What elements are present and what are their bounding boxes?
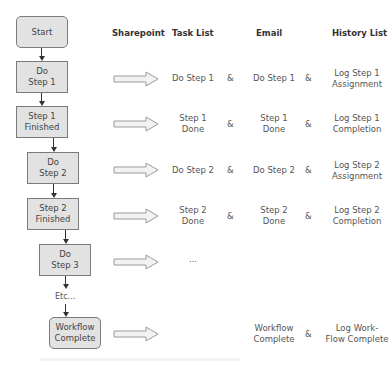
right-arrow-icon — [113, 71, 159, 87]
do-step-2-node: Do Step 2 — [27, 152, 79, 184]
ampersand: & — [227, 211, 234, 221]
header-task-list: Task List — [172, 28, 214, 38]
ampersand: & — [305, 165, 312, 175]
email-cell: Do Step 1 — [245, 73, 303, 84]
etc-label: Etc... — [55, 292, 75, 301]
ampersand: & — [305, 329, 312, 339]
connector-arrowhead — [63, 284, 69, 289]
history-cell: Log Step 2 Assignment — [322, 160, 392, 182]
do-step-1-node: Do Step 1 — [16, 61, 68, 93]
history-cell: Log Work- Flow Complete — [322, 323, 392, 345]
history-cell: Log Step 2 Completion — [322, 205, 392, 227]
ampersand: & — [227, 165, 234, 175]
email-cell: Step 1 Done — [245, 113, 303, 135]
step-2-finished-node: Step 2 Finished — [27, 198, 79, 230]
task-cell: Do Step 2 — [168, 165, 218, 176]
start-node: Start — [16, 16, 68, 48]
task-cell: Step 2 Done — [168, 205, 218, 227]
right-arrow-icon — [113, 254, 159, 270]
step-1-finished-node: Step 1 Finished — [16, 106, 68, 138]
email-cell: Do Step 2 — [245, 165, 303, 176]
right-arrow-icon — [113, 162, 159, 178]
right-arrow-icon — [113, 326, 159, 342]
faint-caption-line — [40, 358, 240, 361]
email-cell: Step 2 Done — [245, 205, 303, 227]
task-cell: Step 1 Done — [168, 113, 218, 135]
email-cell: Workflow Complete — [245, 323, 303, 345]
header-history-list: History List — [332, 28, 387, 38]
ampersand: & — [227, 73, 234, 83]
do-step-3-node: Do Step 3 — [39, 244, 91, 276]
right-arrow-icon — [113, 208, 159, 224]
ampersand: & — [305, 119, 312, 129]
ampersand: & — [227, 119, 234, 129]
ampersand: & — [305, 73, 312, 83]
task-cell: ... — [168, 254, 218, 265]
header-sharepoint: Sharepoint — [112, 28, 165, 38]
task-cell: Do Step 1 — [168, 73, 218, 84]
header-email: Email — [256, 28, 282, 38]
history-cell: Log Step 1 Completion — [322, 113, 392, 135]
history-cell: Log Step 1 Assignment — [322, 68, 392, 90]
workflow-complete-node: Workflow Complete — [49, 317, 101, 349]
right-arrow-icon — [113, 116, 159, 132]
ampersand: & — [305, 211, 312, 221]
